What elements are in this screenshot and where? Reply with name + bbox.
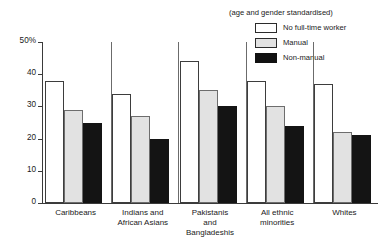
bar-chart: (age and gender standardised) No full-ti… [0,0,390,250]
y-tick-mark [38,74,42,75]
bar [247,81,266,203]
bar [150,139,169,203]
category-label: PakistanisandBangladeshis [176,208,243,238]
category-label-line: African Asians [109,218,176,228]
bar [64,110,83,203]
y-tick-label: 30 [27,100,36,109]
y-axis-line [42,42,43,203]
bar [352,135,371,203]
y-tick-label: 50% [20,36,36,45]
bar [83,123,102,204]
bar [112,94,131,203]
category-label-line: All ethnic [244,208,311,218]
legend-item-label: No full-time worker [283,23,346,33]
category-label-line: minorities [244,218,311,228]
category-label: Indians andAfrican Asians [109,208,176,228]
category-label-line: Caribbeans [42,208,109,218]
bar [45,81,64,203]
category-label-line: and [176,218,243,228]
y-tick: 50% [42,42,46,43]
bar [285,126,304,203]
y-tick-mark [38,42,42,43]
legend-note: (age and gender standardised) [228,8,388,18]
category-label: Whites [311,208,378,218]
bar [218,106,237,203]
y-tick-label: 40 [27,68,36,77]
bar [199,90,218,203]
bar [131,116,150,203]
bar [266,106,285,203]
y-tick-label: 20 [27,133,36,142]
y-tick-mark [38,203,42,204]
bar [180,61,199,203]
plot-area: 50%403020100 CaribbeansIndians andAfrica… [42,42,378,203]
bar [333,132,352,203]
y-tick-mark [38,171,42,172]
y-tick: 0 [42,203,46,204]
category-label-line: Indians and [109,208,176,218]
y-tick-label: 10 [27,165,36,174]
y-tick-label: 0 [31,197,36,206]
category-label: Caribbeans [42,208,109,218]
category-label-line: Pakistanis [176,208,243,218]
legend-swatch-icon [255,23,277,33]
category-label: All ethnicminorities [244,208,311,228]
y-tick-mark [38,106,42,107]
category-label-line: Whites [311,208,378,218]
x-axis-line [42,203,378,204]
legend-item-no-full-time-worker: No full-time worker [255,21,388,34]
y-tick-mark [38,139,42,140]
y-tick: 40 [42,74,46,75]
bar [314,84,333,203]
category-label-line: Bangladeshis [176,228,243,238]
